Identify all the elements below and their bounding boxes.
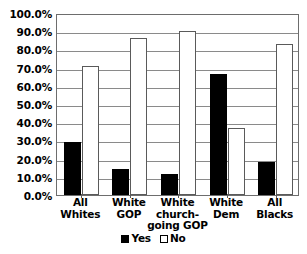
y-tick-label: 70.0% (17, 63, 52, 74)
x-axis-label-line: All (243, 197, 306, 209)
bar-group (251, 15, 300, 195)
bar-group (106, 15, 155, 195)
bar-yes (210, 74, 227, 195)
y-tick-label: 20.0% (17, 154, 52, 165)
bar-no (82, 66, 99, 195)
x-axis-label-line: Blacks (243, 209, 306, 221)
y-tick-label: 40.0% (17, 118, 52, 129)
bar-group (154, 15, 203, 195)
legend-item-no: No (160, 233, 186, 244)
x-axis-label: AllBlacks (243, 197, 306, 220)
plot-area (56, 14, 299, 196)
y-tick-label: 10.0% (17, 172, 52, 183)
y-tick-label: 100.0% (9, 9, 52, 20)
bar-yes (64, 142, 81, 195)
bar-yes (161, 174, 178, 195)
x-axis-label-line: going GOP (146, 220, 209, 232)
bar-no (130, 38, 147, 195)
y-tick-label: 50.0% (17, 100, 52, 111)
bar-yes (258, 162, 275, 195)
bar-chart: 0.0%10.0%20.0%30.0%40.0%50.0%60.0%70.0%8… (0, 0, 307, 254)
bar-no (179, 31, 196, 195)
bar-no (276, 44, 293, 195)
bar-group (203, 15, 252, 195)
legend-swatch-no (160, 235, 168, 243)
y-tick-label: 80.0% (17, 45, 52, 56)
bar-no (228, 128, 245, 195)
y-tick-label: 0.0% (24, 191, 52, 202)
bars-layer (57, 15, 298, 195)
legend-swatch-yes (121, 235, 129, 243)
bar-group (57, 15, 106, 195)
y-tick-label: 60.0% (17, 81, 52, 92)
legend-label-yes: Yes (131, 233, 150, 244)
legend-label-no: No (170, 233, 186, 244)
y-tick-label: 30.0% (17, 136, 52, 147)
chart-legend: Yes No (0, 233, 307, 244)
y-tick-label: 90.0% (17, 27, 52, 38)
y-axis: 0.0%10.0%20.0%30.0%40.0%50.0%60.0%70.0%8… (0, 14, 54, 196)
bar-yes (112, 169, 129, 195)
legend-item-yes: Yes (121, 233, 150, 244)
